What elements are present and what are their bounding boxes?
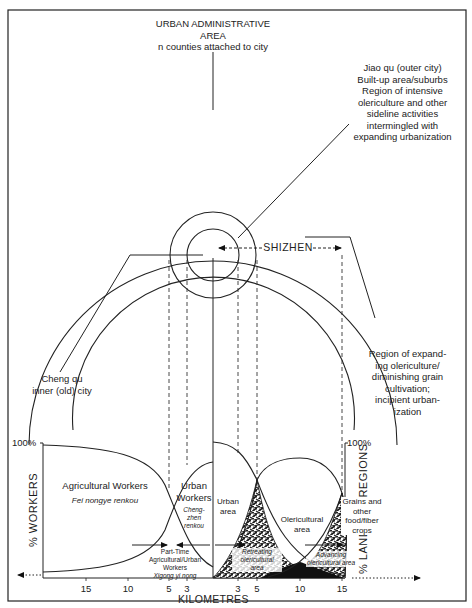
retreating-line1: Retreating — [232, 548, 282, 556]
tick-right-15: 15 — [334, 583, 350, 595]
jiao-qu-line: Built-up area/suburbs — [340, 74, 465, 86]
advancing-line1: Advancing — [306, 551, 356, 559]
jiao-qu-line: expanding urbanization — [340, 131, 465, 143]
urban-sub2: zhen — [176, 514, 212, 522]
expanding-region-line: diminishing grain — [355, 371, 460, 383]
tick-right-5: 5 — [251, 583, 263, 595]
olericultural-area-label: Olericultural area — [277, 515, 327, 534]
grains-line3: food/fiber — [341, 516, 383, 526]
agricultural-workers-label: Agricultural Workers Fei nongye renkou — [55, 480, 155, 505]
parttime-line2: Agricultural/Urban — [140, 556, 210, 564]
urban-area-line2: area — [214, 507, 242, 517]
cheng-qu-label: Cheng qu inner (old) city — [22, 373, 102, 396]
urban-sub1: Cheng- — [176, 506, 212, 514]
urban-sub3: renkou — [176, 522, 212, 530]
oleri-line2: area — [277, 525, 327, 535]
tick-left-5: 5 — [163, 583, 175, 595]
parttime-workers-label: Part-Time Agricultural/Urban Workers Xig… — [140, 548, 210, 580]
advancing-line2: olericultural area — [306, 559, 356, 567]
expanding-region-line: ing olericulture/ — [355, 360, 460, 372]
workers-axis-label: % WORKERS — [27, 465, 39, 555]
urban-admin-line1: URBAN ADMINISTRATIVE — [128, 18, 298, 30]
urban-area-line1: Urban — [214, 497, 242, 507]
grains-line1: Grains and — [341, 497, 383, 507]
retreating-line3: area — [232, 564, 282, 572]
cheng-qu-line1: Cheng qu — [22, 373, 102, 385]
jiao-qu-line: sideline activities — [340, 108, 465, 120]
urban-workers-label: Urban Workers Cheng- zhen renkou — [176, 480, 212, 530]
urban-admin-line3: n counties attached to city — [128, 41, 298, 53]
agri-label: Agricultural Workers — [55, 480, 155, 492]
retreating-label: Retreating olericultural area — [232, 548, 282, 572]
tick-right-10: 10 — [292, 583, 308, 595]
parttime-line1: Part-Time — [140, 548, 210, 556]
tick-left-10: 10 — [120, 583, 136, 595]
expanding-region-line: Region of expand- — [355, 348, 460, 360]
urban-workers-line1: Urban — [176, 480, 212, 492]
urban-workers-line2: Workers — [176, 492, 212, 504]
jiao-qu-line: intermingled with — [340, 120, 465, 132]
shizhen-label: SHIZHEN — [262, 242, 314, 254]
expanding-region-line: incipient urban- — [355, 394, 460, 406]
cheng-qu-line2: inner (old) city — [22, 385, 102, 397]
jiao-qu-line: olericulture and other — [340, 97, 465, 109]
agri-sub: Fei nongye renkou — [55, 496, 155, 506]
expanding-region-label: Region of expand- ing olericulture/ dimi… — [355, 348, 460, 417]
oleri-line1: Olericultural — [277, 515, 327, 525]
advancing-label: Advancing olericultural area — [306, 551, 356, 567]
parttime-sub: Xigong yi nong — [140, 572, 210, 580]
grains-label: Grains and other food/fiber crops — [341, 497, 383, 535]
urban-area-label: Urban area — [214, 497, 242, 516]
expanding-region-line: cultivation; — [355, 383, 460, 395]
jiao-qu-line: Region of intensive — [340, 85, 465, 97]
grains-line2: other — [341, 507, 383, 517]
jiao-qu-label: Jiao qu (outer city) Built-up area/subur… — [340, 62, 465, 143]
grains-line4: crops — [341, 526, 383, 536]
kilometres-axis-label: KILOMETRES — [178, 594, 248, 606]
tick-left-15: 15 — [78, 583, 94, 595]
retreating-line2: olericultural — [232, 556, 282, 564]
urban-admin-line2: AREA — [128, 30, 298, 42]
expanding-region-line: ization — [355, 406, 460, 418]
urban-admin-label: URBAN ADMINISTRATIVE AREA n counties att… — [128, 18, 298, 53]
parttime-line3: Workers — [140, 564, 210, 572]
left-100-label: 100% — [12, 437, 42, 449]
jiao-qu-line: Jiao qu (outer city) — [340, 62, 465, 74]
